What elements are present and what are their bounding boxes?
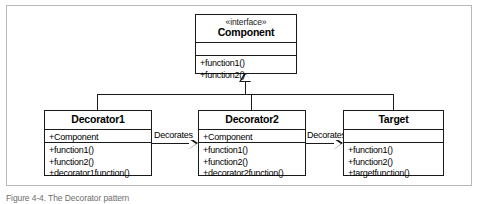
class-attributes-decorator2: +Component (199, 130, 305, 143)
class-name: Target (346, 114, 441, 125)
class-attributes-target (344, 130, 443, 143)
generalization-bus (97, 94, 394, 95)
uml-class-decorator1[interactable]: Decorator1 +Component +function1() +func… (44, 110, 152, 176)
generalization-drop-decorator2 (251, 94, 252, 110)
generalization-drop-target (393, 94, 394, 110)
class-header-decorator1: Decorator1 (45, 111, 151, 130)
operation-item: +decorator2function() (203, 168, 301, 180)
operation-item: +function1() (49, 145, 147, 157)
class-operations-decorator1: +function1() +function2() +decorator1fun… (45, 143, 151, 183)
operation-item: +function1() (348, 145, 439, 157)
association-label-decorates-1: Decorates (153, 130, 194, 140)
operation-item: +function1() (203, 145, 301, 157)
generalization-drop-decorator1 (97, 94, 98, 110)
association-line-decorates-1 (152, 143, 190, 144)
class-name: Decorator1 (47, 114, 149, 125)
attribute-item: +Component (49, 132, 147, 144)
uml-class-component[interactable]: «interface» Component +function1() +func… (195, 14, 297, 74)
operation-item: +function2() (348, 157, 439, 169)
operation-item: +function2() (49, 157, 147, 169)
class-name: Decorator2 (201, 114, 303, 125)
class-header-component: «interface» Component (196, 15, 296, 43)
class-header-target: Target (344, 111, 443, 130)
class-operations-decorator2: +function1() +function2() +decorator2fun… (199, 143, 305, 183)
class-attributes-component (196, 43, 296, 56)
class-attributes-decorator1: +Component (45, 130, 151, 143)
class-operations-component: +function1() +function2() (196, 56, 296, 84)
attribute-item: +Component (203, 132, 301, 144)
uml-class-decorator2[interactable]: Decorator2 +Component +function1() +func… (198, 110, 306, 176)
operation-item: +function2() (203, 157, 301, 169)
operation-item: +targetfunction() (348, 168, 439, 180)
association-label-decorates-2: Decorates (306, 130, 347, 140)
class-name: Component (198, 27, 294, 38)
class-operations-target: +function1() +function2() +targetfunctio… (344, 143, 443, 183)
operation-item: +decorator1function() (49, 168, 147, 180)
uml-class-target[interactable]: Target +function1() +function2() +target… (343, 110, 444, 176)
operation-item: +function2() (200, 70, 292, 82)
operation-item: +function1() (200, 58, 292, 70)
class-header-decorator2: Decorator2 (199, 111, 305, 130)
figure-caption: Figure 4-4. The Decorator pattern (6, 193, 129, 204)
association-line-decorates-2 (306, 143, 335, 144)
figure-canvas: «interface» Component +function1() +func… (0, 0, 481, 204)
